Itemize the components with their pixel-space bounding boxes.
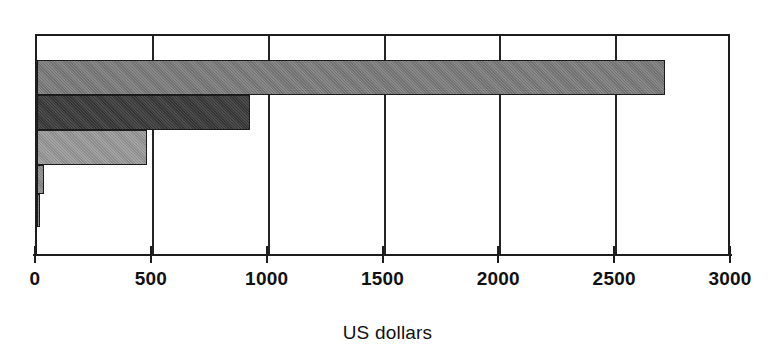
bar-2: [37, 95, 250, 130]
x-tick-label-1500: 1500: [361, 268, 404, 290]
bar-4: [37, 165, 44, 194]
x-tick-500: [150, 246, 152, 263]
x-tick-2500: [613, 246, 615, 263]
x-tick-0: [34, 246, 36, 263]
x-axis-title: US dollars: [0, 322, 775, 344]
x-tick-2000: [497, 246, 499, 263]
x-tick-label-1000: 1000: [245, 268, 288, 290]
x-tick-1000: [266, 246, 268, 263]
x-tick-label-2000: 2000: [477, 268, 520, 290]
plot-area: [35, 34, 730, 255]
x-tick-3000: [729, 246, 731, 263]
x-tick-label-500: 500: [135, 268, 167, 290]
bars-layer: [37, 36, 728, 255]
x-tick-label-2500: 2500: [593, 268, 636, 290]
bar-chart: 050010001500200025003000 US dollars: [0, 0, 775, 364]
x-tick-label-3000: 3000: [708, 268, 751, 290]
bar-3: [37, 130, 147, 165]
x-tick-label-0: 0: [30, 268, 41, 290]
bar-5: [37, 194, 40, 227]
x-tick-1500: [382, 246, 384, 263]
bar-1: [37, 60, 665, 95]
